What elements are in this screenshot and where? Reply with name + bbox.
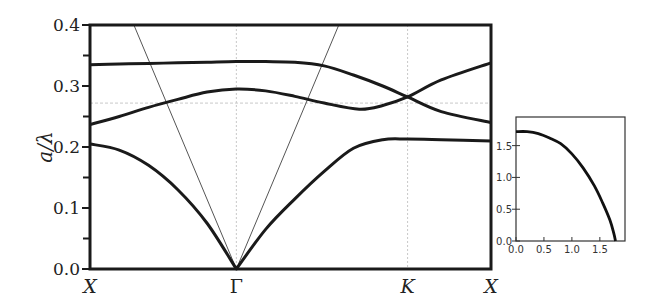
x-tick-label: K (399, 275, 416, 297)
inset-curve (516, 131, 615, 241)
inset-plot: 0.00.51.01.50.00.51.01.5 (496, 117, 625, 255)
inset-y-tick-label: 1.0 (496, 172, 512, 183)
band-curve-band-3 (90, 62, 491, 123)
inset-x-tick-label: 1.0 (564, 244, 580, 255)
band-curve-band-2 (90, 63, 491, 125)
band-structure-figure: 0.00.10.20.30.4XΓKX 0.00.51.01.50.00.51.… (0, 0, 652, 307)
y-tick-label: 0.0 (53, 259, 80, 279)
y-tick-label: 0.3 (53, 76, 80, 96)
inset-y-tick-label: 1.5 (496, 141, 512, 152)
x-tick-label: X (81, 275, 98, 297)
main-plot: 0.00.10.20.30.4XΓKX (53, 15, 499, 297)
y-tick-label: 0.4 (53, 15, 80, 35)
x-tick-label: Γ (230, 275, 243, 297)
x-tick-label: X (482, 275, 499, 297)
inset-y-tick-label: 0.5 (496, 204, 512, 215)
inset-x-tick-label: 0.0 (508, 244, 524, 255)
band-curve-band-1 (90, 139, 491, 269)
y-axis-label: a/λ (33, 131, 57, 162)
y-tick-label: 0.1 (53, 198, 80, 218)
inset-x-tick-label: 1.5 (592, 244, 608, 255)
inset-frame (516, 117, 625, 241)
y-tick-label: 0.2 (53, 137, 80, 157)
inset-x-tick-label: 0.5 (536, 244, 552, 255)
